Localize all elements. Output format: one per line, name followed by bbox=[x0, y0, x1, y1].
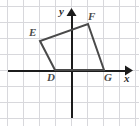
y-axis-label: y bbox=[59, 6, 64, 17]
grid-lines bbox=[0, 0, 139, 126]
coordinate-plane-figure: E F D G y x bbox=[0, 0, 139, 126]
vertex-label-g: G bbox=[104, 72, 112, 83]
vertex-label-d: D bbox=[47, 72, 55, 83]
vertex-label-f: F bbox=[88, 11, 95, 22]
coordinate-plane-svg bbox=[0, 0, 139, 126]
y-axis bbox=[67, 8, 77, 118]
x-axis-label: x bbox=[124, 73, 130, 84]
y-axis-arrowhead bbox=[67, 8, 77, 16]
vertex-label-e: E bbox=[29, 27, 36, 38]
